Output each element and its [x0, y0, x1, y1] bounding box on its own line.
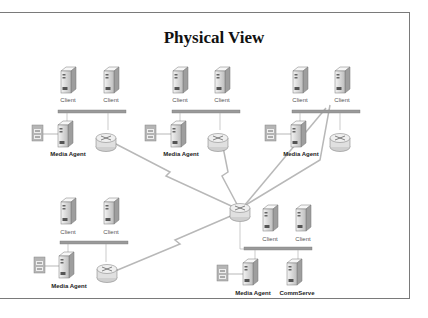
media-agent-label: Media Agent [44, 283, 94, 289]
media-agent-label: Media Agent [156, 151, 206, 157]
media-agent-label: Media Agent [228, 290, 278, 296]
site-bottom-left [34, 198, 128, 283]
network-diagram [0, 0, 428, 318]
commserve-label: CommServe [272, 290, 322, 296]
site-top-right [265, 67, 360, 152]
client-label: Client [317, 97, 367, 103]
media-agent-label: Media Agent [43, 151, 93, 157]
client-label: Client [86, 229, 136, 235]
client-label: Client [197, 97, 247, 103]
client-label: Client [86, 97, 136, 103]
site-bottom-right [217, 204, 312, 286]
site-top-center [145, 67, 240, 152]
site-top-left [32, 67, 126, 152]
media-agent-label: Media Agent [276, 151, 326, 157]
client-label: Client [278, 236, 328, 242]
